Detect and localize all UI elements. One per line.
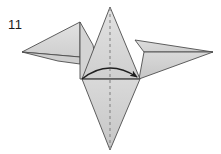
left-wing-upper-facet [22, 22, 80, 57]
center-lower-triangle [82, 79, 140, 150]
right-wing-upper-facet [135, 40, 213, 52]
step-number-label: 11 [8, 18, 23, 32]
right-wing-lower-facet [139, 52, 213, 79]
left-wing-group [22, 22, 80, 64]
origami-step-figure: 11 [0, 0, 221, 154]
right-wing-group [135, 40, 213, 79]
origami-illustration [0, 0, 221, 154]
